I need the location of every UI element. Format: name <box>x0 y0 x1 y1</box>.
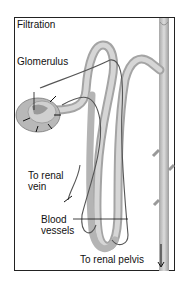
label-blood-vessels-1: Blood <box>41 214 67 225</box>
collecting-duct <box>153 18 174 271</box>
renal-tubule <box>55 45 160 249</box>
label-renal-vein-1: To renal <box>28 170 64 181</box>
diagram-title: Filtration <box>17 19 55 30</box>
glomerulus-capsule <box>16 96 61 132</box>
label-glomerulus: Glomerulus <box>17 56 68 67</box>
label-renal-vein-2: vein <box>28 181 46 192</box>
label-blood-vessels-2: vessels <box>41 225 74 236</box>
nephron-illustration <box>0 0 187 286</box>
label-renal-pelvis: To renal pelvis <box>80 254 144 265</box>
renal-vein-arrow <box>64 196 72 202</box>
